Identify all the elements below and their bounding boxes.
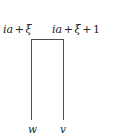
label-term-one: 1: [93, 23, 100, 36]
vertex-label-top-right: ia+ξ+1: [52, 24, 100, 35]
label-term-ia: ia: [52, 23, 62, 36]
contour-top-bar: [31, 39, 64, 40]
contour-left-vertical-line: [31, 39, 32, 120]
label-term-xi: ξ: [26, 23, 32, 36]
math-figure: ia+ξ ia+ξ+1 w v: [0, 0, 122, 140]
endpoint-label-w: w: [28, 124, 37, 135]
label-operator-plus-second: +: [81, 23, 93, 36]
endpoint-label-v: v: [60, 124, 66, 135]
label-operator-plus: +: [13, 23, 25, 36]
vertex-label-top-left: ia+ξ: [3, 24, 32, 35]
label-operator-plus: +: [62, 23, 74, 36]
label-term-ia: ia: [3, 23, 13, 36]
label-term-xi: ξ: [75, 23, 81, 36]
contour-right-vertical-line: [63, 39, 64, 120]
